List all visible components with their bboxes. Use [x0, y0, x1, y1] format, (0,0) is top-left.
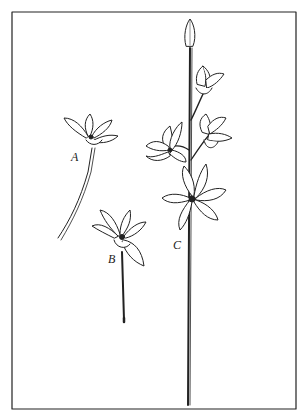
illustration-plate: [0, 0, 298, 417]
flower-stalk-c: [146, 19, 232, 405]
figure-label-c: C: [173, 238, 181, 253]
plate-frame: [12, 12, 296, 409]
figure-label-a: A: [71, 150, 78, 165]
figure-label-b: B: [108, 252, 115, 267]
flower-b: [92, 210, 146, 322]
